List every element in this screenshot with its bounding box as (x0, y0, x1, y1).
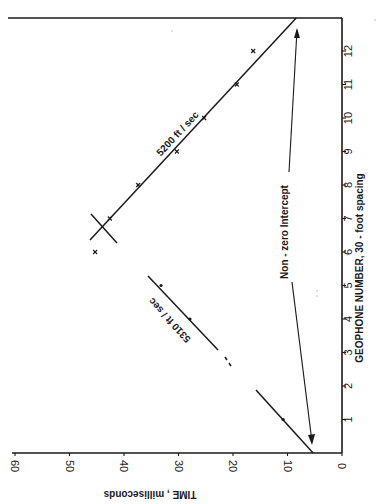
lower-line-gap-dashes (225, 357, 231, 366)
time-tick-label: 0 (336, 463, 348, 469)
geophone-tick-label: 8 (342, 182, 354, 188)
geophone-tick-label: 3 (342, 349, 354, 355)
scan-speck (374, 19, 376, 21)
geophone-tick-label: 9 (342, 148, 354, 154)
time-tick-label: 40 (118, 460, 130, 472)
arrow-up-head-icon (294, 28, 300, 38)
time-ticks: 0102030405060 (9, 453, 348, 472)
scan-speck (316, 295, 318, 297)
intercept-arrows (289, 28, 315, 445)
arrow-up-shaft (289, 30, 297, 172)
arrow-down-head-icon (308, 434, 315, 445)
geophone-axis-label: GEOPHONE NUMBER, 30 - foot spacing (354, 173, 365, 362)
arrow-down-shaft (292, 282, 312, 442)
scan-speck (316, 290, 318, 292)
geophone-tick-label: 11 (342, 79, 354, 90)
intercept-annotation: Non - zero Intercept (279, 184, 290, 279)
fit-line-5310-lower-segment (256, 390, 313, 453)
time-tick-label: 20 (227, 460, 239, 472)
geophone-tick-label: 12 (342, 45, 354, 57)
time-tick-label: 60 (9, 460, 21, 472)
fit-line-5200 (90, 18, 296, 240)
geophone-tick-label: 2 (342, 383, 354, 389)
geophone-ticks: 123456789101112 (342, 45, 354, 423)
time-tick-label: 30 (173, 460, 185, 472)
scan-speck (171, 30, 173, 32)
time-tick-label: 50 (64, 460, 76, 472)
geophone-tick-label: 6 (342, 249, 354, 255)
geophone-tick-label: 7 (342, 215, 354, 221)
time-tick-label: 10 (282, 460, 294, 472)
time-axis-label: TIME , milliseconds (103, 489, 196, 500)
data-point-dot-icon (282, 418, 285, 421)
geophone-tick-label: 5 (342, 282, 354, 288)
data-point-dot-icon (188, 317, 191, 320)
seismic-refraction-chart: 123456789101112 0102030405060 GEOPHONE N… (0, 0, 377, 504)
geophone-tick-label: 1 (342, 416, 354, 422)
geophone-tick-label: 4 (342, 316, 354, 322)
plot-frame (8, 18, 342, 453)
lower-line-label: 5310 ft / sec (146, 296, 193, 345)
crossover-line (91, 214, 117, 243)
geophone-tick-label: 10 (342, 112, 354, 124)
data-markers (93, 49, 285, 421)
data-point-dot-icon (159, 284, 162, 287)
